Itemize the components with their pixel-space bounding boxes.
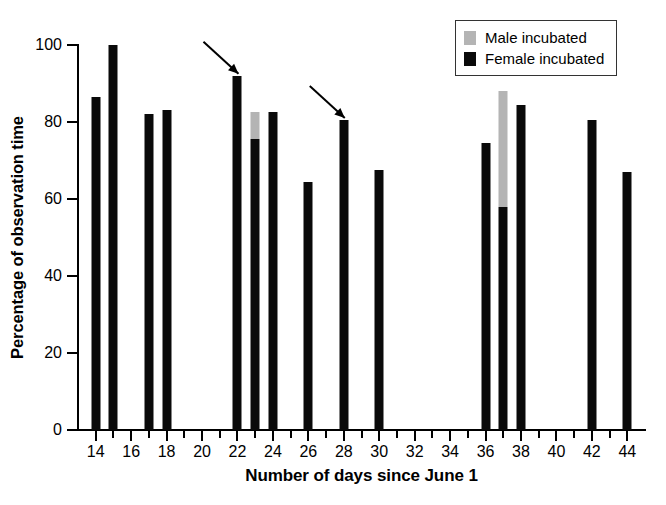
legend-label: Female incubated xyxy=(485,51,604,66)
annotation-layer xyxy=(78,45,645,430)
x-tick-label-42: 42 xyxy=(583,444,601,460)
x-tick-minor-37 xyxy=(502,431,504,438)
x-axis-ticks: 14161820222426283032343638404244 xyxy=(78,431,645,471)
legend-item-female: Female incubated xyxy=(464,48,604,69)
y-tick-mark xyxy=(67,198,78,200)
x-tick-label-20: 20 xyxy=(193,444,211,460)
y-tick-label: 80 xyxy=(44,114,62,130)
x-tick-label-30: 30 xyxy=(370,444,388,460)
x-tick-major-40 xyxy=(555,431,557,441)
y-tick-mark xyxy=(67,429,78,431)
x-tick-major-18 xyxy=(166,431,168,441)
x-tick-label-24: 24 xyxy=(264,444,282,460)
x-tick-minor-21 xyxy=(219,431,221,438)
y-tick-label: 0 xyxy=(53,422,62,438)
x-tick-major-16 xyxy=(130,431,132,441)
x-tick-minor-17 xyxy=(148,431,150,438)
x-tick-label-18: 18 xyxy=(158,444,176,460)
x-tick-major-20 xyxy=(201,431,203,441)
arrow-day-22 xyxy=(203,42,238,74)
y-tick-label: 60 xyxy=(44,191,62,207)
x-tick-major-28 xyxy=(343,431,345,441)
y-tick-mark xyxy=(67,121,78,123)
x-tick-minor-15 xyxy=(112,431,114,438)
x-tick-major-44 xyxy=(626,431,628,441)
y-tick-mark xyxy=(67,275,78,277)
chart-legend: Male incubatedFemale incubated xyxy=(455,20,617,76)
x-tick-minor-23 xyxy=(254,431,256,438)
x-tick-major-36 xyxy=(485,431,487,441)
bar-chart-figure: Percentage of observation time 020406080… xyxy=(0,0,666,505)
x-tick-major-14 xyxy=(95,431,97,441)
x-tick-label-32: 32 xyxy=(406,444,424,460)
x-tick-label-26: 26 xyxy=(299,444,317,460)
y-tick-label: 20 xyxy=(44,345,62,361)
x-tick-major-26 xyxy=(307,431,309,441)
x-tick-minor-43 xyxy=(609,431,611,438)
x-tick-major-24 xyxy=(272,431,274,441)
x-tick-major-32 xyxy=(414,431,416,441)
y-tick-label: 100 xyxy=(35,37,62,53)
x-tick-minor-19 xyxy=(183,431,185,438)
x-tick-label-40: 40 xyxy=(548,444,566,460)
x-tick-label-36: 36 xyxy=(477,444,495,460)
x-tick-minor-31 xyxy=(396,431,398,438)
x-tick-label-28: 28 xyxy=(335,444,353,460)
legend-label: Male incubated xyxy=(485,30,587,45)
x-tick-label-38: 38 xyxy=(512,444,530,460)
x-tick-major-42 xyxy=(591,431,593,441)
x-tick-label-14: 14 xyxy=(87,444,105,460)
x-tick-minor-27 xyxy=(325,431,327,438)
arrow-day-28 xyxy=(310,86,345,118)
y-tick-mark xyxy=(67,44,78,46)
x-tick-minor-25 xyxy=(290,431,292,438)
y-tick-label: 40 xyxy=(44,268,62,284)
black-square-swatch xyxy=(464,52,476,66)
plot-area: 020406080100 xyxy=(78,45,645,430)
x-tick-label-22: 22 xyxy=(229,444,247,460)
x-tick-minor-35 xyxy=(467,431,469,438)
x-tick-minor-29 xyxy=(361,431,363,438)
x-tick-minor-33 xyxy=(431,431,433,438)
x-tick-major-34 xyxy=(449,431,451,441)
x-tick-major-30 xyxy=(378,431,380,441)
y-tick-mark xyxy=(67,352,78,354)
x-tick-minor-41 xyxy=(573,431,575,438)
x-tick-major-38 xyxy=(520,431,522,441)
x-axis-title: Number of days since June 1 xyxy=(78,466,645,486)
x-tick-label-34: 34 xyxy=(441,444,459,460)
y-axis-title: Percentage of observation time xyxy=(6,45,28,430)
legend-item-male: Male incubated xyxy=(464,27,604,48)
gray-square-swatch xyxy=(464,31,476,45)
x-tick-label-16: 16 xyxy=(122,444,140,460)
x-tick-major-22 xyxy=(236,431,238,441)
x-tick-minor-39 xyxy=(538,431,540,438)
x-tick-label-44: 44 xyxy=(618,444,636,460)
